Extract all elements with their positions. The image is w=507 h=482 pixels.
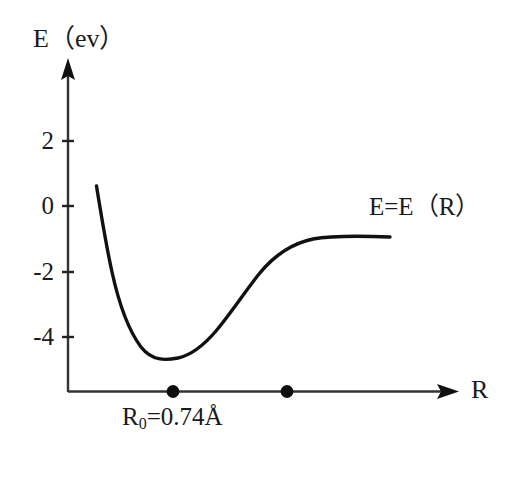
curve-label: E=E（R） — [369, 194, 480, 219]
annotation-value: =0.74Å — [147, 403, 223, 430]
annotation-subscript: 0 — [139, 415, 147, 432]
second-point-marker — [281, 385, 294, 398]
y-tick-label-2: 2 — [8, 128, 54, 153]
energy-curve — [97, 186, 391, 359]
y-axis-title: E（ev） — [33, 26, 125, 52]
annotation-symbol: R — [122, 403, 139, 430]
y-tick-label-0: 0 — [8, 193, 54, 218]
potential-energy-curve-figure: E（ev） R E=E（R） 2 0 -2 -4 R0=0.74Å — [0, 0, 507, 482]
y-tick-label-minus-2: -2 — [8, 259, 54, 284]
equilibrium-point-marker — [167, 385, 180, 398]
y-tick-label-minus-4: -4 — [8, 324, 54, 349]
x-axis-title: R — [471, 377, 488, 403]
plot-canvas — [0, 0, 507, 482]
equilibrium-distance-annotation: R0=0.74Å — [122, 404, 223, 432]
